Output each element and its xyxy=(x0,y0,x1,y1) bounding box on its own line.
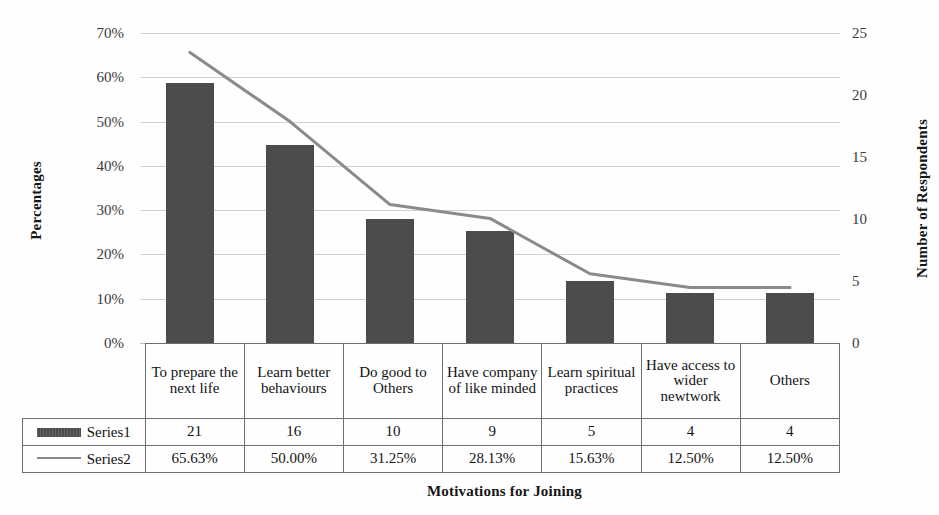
right-tick-label: 5 xyxy=(852,273,860,290)
value-cell: 12.50% xyxy=(740,446,839,473)
data-table-wrapper: To prepare the next lifeLearn better beh… xyxy=(22,343,840,473)
data-table-body: To prepare the next lifeLearn better beh… xyxy=(23,344,840,473)
right-tick-label: 20 xyxy=(852,87,867,104)
line-series-series2 xyxy=(140,33,840,343)
category-header-cell: Have access to wider newtwork xyxy=(641,344,740,419)
legend-cell-series1[interactable]: Series1 xyxy=(23,419,146,446)
value-cell: 21 xyxy=(145,419,244,446)
legend-label: Series1 xyxy=(87,425,131,441)
value-cell: 15.63% xyxy=(542,446,641,473)
data-table: To prepare the next lifeLearn better beh… xyxy=(22,343,840,473)
category-header-cell: Learn better behaviours xyxy=(244,344,343,419)
value-cell: 28.13% xyxy=(443,446,542,473)
left-tick-label: 40% xyxy=(97,157,125,174)
category-header-cell: Others xyxy=(740,344,839,419)
table-corner-cell xyxy=(23,344,146,419)
plot-area xyxy=(140,33,840,343)
value-cell: 9 xyxy=(443,419,542,446)
value-cell: 50.00% xyxy=(244,446,343,473)
left-axis-ticks: 0%10%20%30%40%50%60%70% xyxy=(62,33,124,343)
series2-polyline xyxy=(190,52,790,287)
right-tick-label: 25 xyxy=(852,25,867,42)
table-row: Series12116109544 xyxy=(23,419,840,446)
left-tick-label: 20% xyxy=(97,246,125,263)
category-header-cell: Learn spiritual practices xyxy=(542,344,641,419)
table-row: Series265.63%50.00%31.25%28.13%15.63%12.… xyxy=(23,446,840,473)
left-tick-label: 60% xyxy=(97,69,125,86)
value-cell: 4 xyxy=(641,419,740,446)
right-axis-title: Number of Respondents xyxy=(914,89,931,309)
value-cell: 12.50% xyxy=(641,446,740,473)
table-row-categories: To prepare the next lifeLearn better beh… xyxy=(23,344,840,419)
category-header-cell: To prepare the next life xyxy=(145,344,244,419)
right-tick-label: 10 xyxy=(852,211,867,228)
value-cell: 16 xyxy=(244,419,343,446)
right-tick-label: 0 xyxy=(852,335,860,352)
value-cell: 4 xyxy=(740,419,839,446)
x-axis-title: Motivations for Joining xyxy=(0,483,939,500)
bar-swatch-icon xyxy=(37,428,81,437)
left-tick-label: 10% xyxy=(97,290,125,307)
value-cell: 5 xyxy=(542,419,641,446)
category-header-cell: Do good to Others xyxy=(343,344,442,419)
value-cell: 65.63% xyxy=(145,446,244,473)
line-swatch-icon xyxy=(37,457,81,459)
right-tick-label: 15 xyxy=(852,149,867,166)
value-cell: 10 xyxy=(343,419,442,446)
legend-label: Series2 xyxy=(87,452,131,468)
right-axis-ticks: 0510152025 xyxy=(852,33,892,343)
left-tick-label: 30% xyxy=(97,202,125,219)
left-axis-title: Percentages xyxy=(28,121,45,281)
legend-cell-series2[interactable]: Series2 xyxy=(23,446,146,473)
left-tick-label: 50% xyxy=(97,113,125,130)
chart-container: Percentages Number of Respondents 0%10%2… xyxy=(0,0,939,515)
category-header-cell: Have company of like minded xyxy=(443,344,542,419)
value-cell: 31.25% xyxy=(343,446,442,473)
left-tick-label: 70% xyxy=(97,25,125,42)
